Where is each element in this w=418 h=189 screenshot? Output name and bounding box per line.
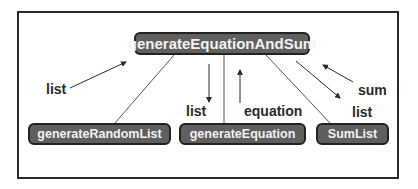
arrow-sum-up-icon: [323, 65, 353, 82]
node-sum-list: SumList: [316, 123, 389, 145]
node-generate-equation-and-sum: generateEquationAndSum: [134, 32, 310, 55]
label-list-return: list: [46, 81, 66, 97]
edge-root-to-random-list: [115, 55, 174, 123]
arrow-list-to-sum-icon: [296, 61, 340, 98]
node-generate-equation: generateEquation: [179, 123, 306, 145]
node-generate-random-list: generateRandomList: [28, 123, 171, 145]
arrow-list-up-icon: [70, 62, 126, 88]
label-sum-return: sum: [358, 82, 387, 98]
label-equation-return: equation: [244, 103, 302, 119]
label-list-sum-arg: list: [352, 104, 372, 120]
label-list-arg: list: [186, 103, 206, 119]
